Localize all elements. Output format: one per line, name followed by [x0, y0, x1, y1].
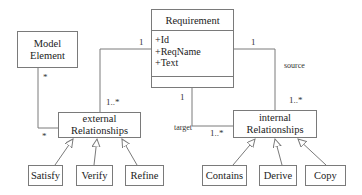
model-element-line2: Element [30, 50, 65, 62]
attribute-id: +Id [155, 34, 233, 46]
internal-relationships-class[interactable]: internal Relationships [233, 110, 317, 138]
model-element-class[interactable]: Model Element [17, 31, 78, 68]
verify-class[interactable]: Verify [76, 165, 113, 186]
model-element-line1: Model [34, 38, 61, 50]
gen-derive [275, 139, 282, 165]
external-line1: external [83, 113, 117, 125]
satisfy-label: Satisfy [31, 170, 60, 182]
copy-class[interactable]: Copy [305, 165, 346, 186]
gen-contains [233, 139, 255, 165]
internal-line1: internal [259, 112, 291, 124]
mult-model-rel-end: * [42, 131, 47, 141]
mult-model-end: * [43, 72, 48, 82]
derive-class[interactable]: Derive [259, 165, 297, 186]
contains-class[interactable]: Contains [202, 165, 247, 186]
refine-class[interactable]: Refine [125, 165, 164, 186]
mult-source-req-end: 1 [251, 37, 256, 47]
external-line2: Relationships [71, 125, 128, 137]
mult-source-rel-end: 1..* [289, 95, 303, 105]
external-relationships-class[interactable]: external Relationships [58, 112, 141, 138]
attribute-reqname: +ReqName [155, 46, 233, 58]
role-target: target [174, 123, 192, 132]
gen-satisfy [55, 139, 73, 165]
derive-label: Derive [264, 170, 293, 182]
contains-label: Contains [206, 170, 243, 182]
mult-target-req-end: 1 [180, 92, 185, 102]
satisfy-class[interactable]: Satisfy [28, 165, 63, 186]
assoc-model-external [38, 67, 58, 128]
verify-label: Verify [81, 170, 107, 182]
internal-line2: Relationships [246, 124, 303, 136]
assoc-req-internal-source [233, 49, 275, 110]
mult-req-external-rel-end: 1..* [106, 97, 120, 107]
attribute-text: +Text [155, 57, 233, 69]
gen-verify [94, 139, 97, 165]
requirement-class[interactable]: Requirement +Id +ReqName +Text [151, 9, 234, 88]
copy-label: Copy [314, 170, 337, 182]
mult-req-external-req-end: 1 [139, 37, 144, 47]
assoc-req-internal-target [192, 87, 233, 126]
role-source: source [284, 61, 305, 70]
requirement-attributes: +Id +ReqName +Text [152, 31, 233, 77]
mult-target-rel-end: 1..* [210, 128, 224, 138]
requirement-class-name: Requirement [152, 10, 233, 31]
gen-refine [122, 139, 137, 165]
gen-copy [298, 139, 326, 165]
refine-label: Refine [131, 170, 159, 182]
